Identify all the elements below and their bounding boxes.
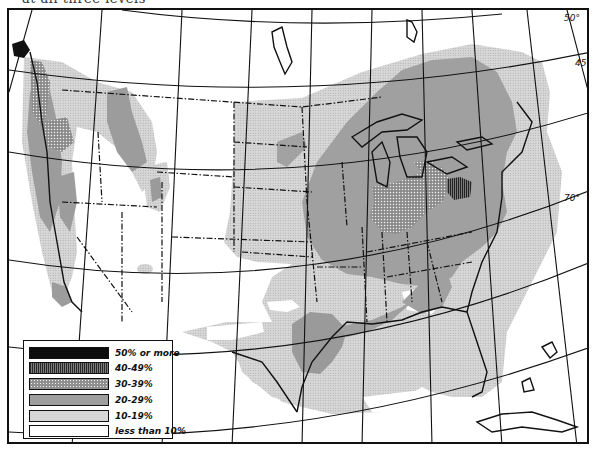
caption-text: at all three levels bbox=[22, 0, 146, 6]
legend-item-under-10: less than 10% bbox=[29, 424, 167, 439]
legend-label: less than 10% bbox=[115, 426, 186, 436]
legend-label: 30-39% bbox=[115, 379, 153, 389]
legend-item-10-19: 10-19% bbox=[29, 408, 167, 423]
legend-item-20-29: 20-29% bbox=[29, 392, 167, 407]
legend-label: 10-19% bbox=[115, 411, 153, 421]
legend-item-30-39: 30-39% bbox=[29, 377, 167, 392]
legend-swatch-30-39 bbox=[29, 378, 109, 390]
caption-fragment: at all three levels bbox=[0, 0, 597, 8]
legend-label: 50% or more bbox=[115, 348, 180, 358]
legend-label: 20-29% bbox=[115, 395, 153, 405]
graticule-label-70: 70° bbox=[564, 193, 580, 203]
legend-label: 40-49% bbox=[115, 363, 153, 373]
legend-swatch-20-29 bbox=[29, 394, 109, 406]
legend-swatch-10-19 bbox=[29, 410, 109, 422]
legend-item-50-plus: 50% or more bbox=[29, 345, 167, 360]
legend-swatch-under-10 bbox=[29, 425, 109, 437]
graticule-label-50: 50° bbox=[564, 13, 580, 23]
legend-swatch-40-49 bbox=[29, 362, 109, 374]
graticule-label-45: 45° bbox=[575, 58, 589, 68]
legend-swatch-50-plus bbox=[29, 347, 109, 359]
legend-item-40-49: 40-49% bbox=[29, 361, 167, 376]
map-legend: 50% or more 40-49% 30-39% 20-29% 10-19% … bbox=[23, 340, 173, 439]
